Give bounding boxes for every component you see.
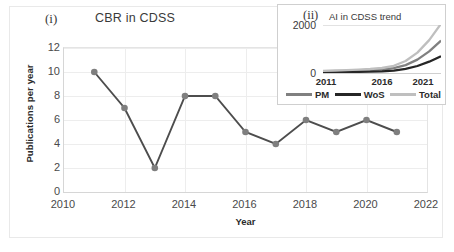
inset-chart-legend: PM WoS Total: [286, 89, 441, 100]
data-point-2019: [333, 129, 340, 136]
legend-entry-pm: PM: [286, 89, 329, 100]
legend-entry-total: Total: [390, 89, 441, 100]
main-chart-title: CBR in CDSS: [95, 11, 175, 25]
main-chart-x-tick-2012: 2012: [102, 198, 146, 210]
main-chart-y-tick-4: 4: [34, 137, 60, 149]
inset-x-tick-2011: 2011: [309, 76, 343, 87]
inset-x-tick-2016: 2016: [365, 76, 399, 87]
legend-swatch-pm: [286, 93, 312, 96]
main-chart-x-tick-2020: 2020: [344, 198, 388, 210]
main-chart-y-axis-label: Publications per year: [24, 54, 35, 174]
legend-swatch-wos: [335, 93, 361, 96]
inset-chart-series: [323, 25, 441, 73]
inset-chart: (ii) AI in CDSS trend 2000 0 2011 2016 2…: [277, 4, 446, 105]
legend-label-pm: PM: [315, 89, 329, 100]
main-chart-x-tick-2022: 2022: [404, 198, 448, 210]
data-point-2011: [91, 69, 98, 76]
data-point-2017: [273, 141, 280, 148]
legend-swatch-total: [390, 93, 416, 96]
main-chart-x-tick-2018: 2018: [283, 198, 327, 210]
inset-axis-bottom: [323, 73, 441, 74]
figure-container: (i) CBR in CDSS Publications per year Ye…: [0, 0, 454, 252]
main-chart-x-tick-2016: 2016: [223, 198, 267, 210]
panel-label-i: (i): [45, 11, 57, 27]
main-chart-x-axis-label: Year: [63, 216, 428, 227]
data-point-2018: [303, 117, 310, 124]
main-chart-y-tick-2: 2: [34, 161, 60, 173]
main-chart-y-tick-8: 8: [34, 89, 60, 101]
main-chart-y-tick-10: 10: [34, 65, 60, 77]
data-point-2020: [363, 117, 370, 124]
legend-entry-wos: WoS: [335, 89, 385, 100]
main-chart-y-tick-0: 0: [34, 185, 60, 197]
data-point-2016: [242, 129, 249, 136]
data-point-2013: [152, 165, 159, 172]
legend-label-total: Total: [419, 89, 441, 100]
inset-chart-title: AI in CDSS trend: [329, 11, 401, 22]
data-point-2021: [394, 129, 401, 136]
data-point-2012: [121, 105, 128, 112]
main-chart-y-tick-12: 12: [34, 41, 60, 53]
inset-y-tick-max: 2000: [282, 19, 316, 31]
data-point-2015: [212, 93, 219, 100]
main-chart-x-tick-2010: 2010: [41, 198, 85, 210]
main-chart-x-tick-2014: 2014: [162, 198, 206, 210]
legend-label-wos: WoS: [364, 89, 385, 100]
data-point-2014: [182, 93, 189, 100]
inset-x-tick-2021: 2021: [406, 76, 440, 87]
main-chart-y-tick-6: 6: [34, 113, 60, 125]
